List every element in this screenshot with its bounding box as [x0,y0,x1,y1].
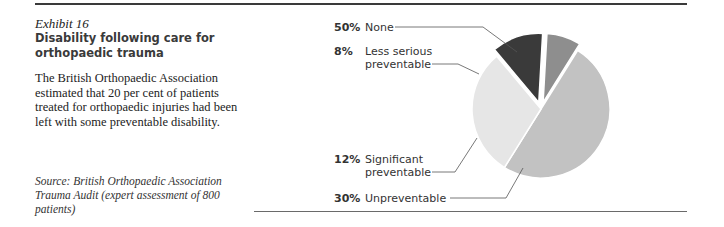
label-pct-none: 50% [334,21,360,34]
leader-line-less-serious [432,64,479,74]
label-less-serious-line1: Less serious [365,45,432,58]
label-pct-significant: 12% [334,153,360,166]
pie-chart: 50% None 8% Less serious preventable 12%… [0,0,724,227]
label-less-serious-line2: preventable [365,58,431,71]
label-significant-line2: preventable [365,166,431,179]
label-unpreventable: Unpreventable [365,192,446,205]
leader-line-significant [432,138,477,172]
label-none: None [365,21,394,34]
label-pct-less-serious: 8% [334,45,353,58]
pie-slices [472,33,610,178]
label-significant-line1: Significant [365,153,424,166]
label-pct-unpreventable: 30% [334,192,360,205]
